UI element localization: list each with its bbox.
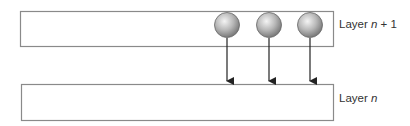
layer-label-upper: Layer n + 1 xyxy=(339,18,397,30)
layer-label-lower: Layer n xyxy=(339,92,377,104)
sphere-node-1 xyxy=(215,13,240,38)
layer-box-lower xyxy=(22,85,334,121)
layer-label-lower-var: n xyxy=(371,92,377,104)
layer-label-lower-prefix: Layer xyxy=(339,92,371,104)
layer-label-upper-prefix: Layer xyxy=(339,18,371,30)
layer-box-upper xyxy=(21,12,334,47)
sphere-node-2 xyxy=(257,13,282,38)
sphere-node-3 xyxy=(298,13,323,38)
layer-label-upper-suffix: + 1 xyxy=(377,18,397,30)
